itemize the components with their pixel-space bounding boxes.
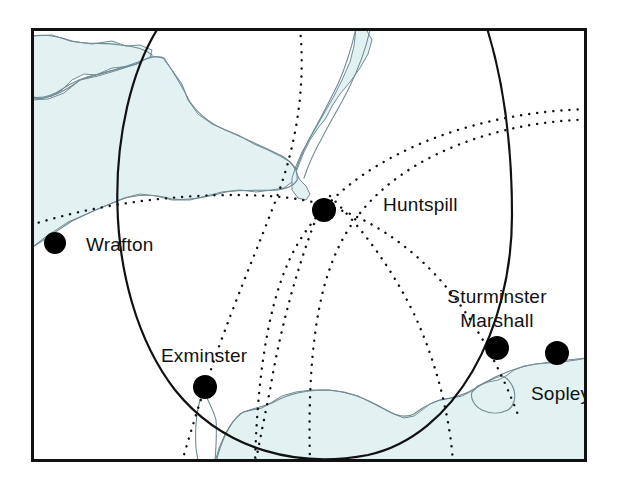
place-label-line: Wrafton <box>86 234 154 255</box>
place-label-line: Huntspill <box>383 194 458 215</box>
station-marker-sturminster-marshall[interactable] <box>485 336 509 360</box>
place-label-line: Exminster <box>161 345 248 366</box>
place-label-sopley: Sopley <box>531 383 591 404</box>
station-marker-wrafton[interactable] <box>44 232 66 254</box>
place-label-line: Marshall <box>460 310 533 331</box>
station-marker-exminster[interactable] <box>193 375 217 399</box>
place-label-exminster: Exminster <box>161 345 248 366</box>
place-label-line: Sopley <box>531 383 591 404</box>
place-label-wrafton: Wrafton <box>86 234 154 255</box>
station-marker-sopley[interactable] <box>545 341 569 365</box>
place-label-line: Sturminster <box>447 286 547 307</box>
map-canvas: WraftonHuntspillSturminsterMarshallExmin… <box>0 0 618 486</box>
station-marker-huntspill[interactable] <box>312 198 336 222</box>
map-figure: WraftonHuntspillSturminsterMarshallExmin… <box>0 0 618 486</box>
place-label-huntspill: Huntspill <box>383 194 458 215</box>
